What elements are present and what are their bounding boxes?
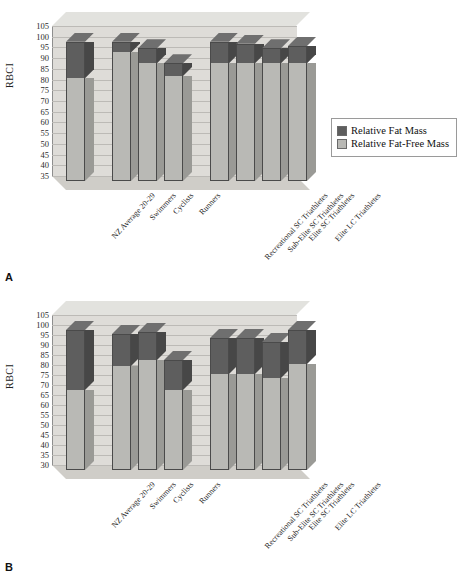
bar-segment-fat[interactable] (66, 330, 85, 390)
y-axis-tick-label: 105 (23, 311, 49, 319)
bar-segment-fat-free[interactable] (164, 76, 183, 181)
y-axis-tick-label: 100 (23, 33, 49, 41)
bar-6[interactable] (236, 44, 255, 181)
bar-segment-fat-side (85, 330, 94, 390)
legend-item-1[interactable]: Relative Fat Mass (337, 125, 449, 137)
bar-segment-fat[interactable] (288, 46, 307, 63)
y-axis-title-a: RBCI (4, 18, 15, 88)
y-axis-tick-label: 35 (23, 451, 49, 459)
bar-segment-fat-free-side (85, 390, 94, 470)
bar-segment-fat-face (138, 332, 157, 360)
bar-segment-fat[interactable] (66, 42, 85, 78)
bar-segment-fat[interactable] (138, 332, 157, 360)
y-axis-tick-label: 40 (23, 161, 49, 169)
bar-segment-fat-free[interactable] (66, 390, 85, 470)
bar-segment-fat-free[interactable] (210, 374, 229, 470)
bar-segment-fat-free[interactable] (262, 378, 281, 470)
bar-3[interactable] (138, 332, 157, 470)
bar-segment-fat-free-face (66, 390, 85, 470)
x-axis-label: Runners (197, 191, 222, 217)
bar-segment-fat-free-side (183, 76, 192, 181)
x-axis-label: Runners (197, 480, 222, 506)
plot-area-b: 1051009590858075706560555045403530NZ Ave… (52, 301, 310, 479)
bar-2[interactable] (112, 334, 131, 470)
y-axis-tick-label: 60 (23, 118, 49, 126)
bar-segment-fat-face (112, 42, 131, 53)
y-axis-tick-label: 50 (23, 421, 49, 429)
panel-letter-b: B (5, 561, 13, 573)
legend-label: Relative Fat Mass (351, 125, 427, 137)
bar-segment-fat[interactable] (236, 44, 255, 63)
bar-segment-fat-free[interactable] (236, 63, 255, 181)
bar-2[interactable] (112, 42, 131, 181)
bar-4[interactable] (164, 360, 183, 470)
bar-8[interactable] (288, 46, 307, 181)
bar-segment-fat-free[interactable] (138, 63, 157, 181)
bar-segment-fat[interactable] (262, 342, 281, 378)
bar-segment-fat[interactable] (112, 334, 131, 366)
bar-segment-fat[interactable] (288, 330, 307, 364)
bar-4[interactable] (164, 63, 183, 181)
y-axis-tick-label: 90 (23, 341, 49, 349)
bar-segment-fat[interactable] (164, 63, 183, 76)
bar-segment-fat[interactable] (112, 42, 131, 53)
bar-segment-fat-free-face (164, 76, 183, 181)
bar-segment-fat[interactable] (164, 360, 183, 390)
y-axis-tick-label: 85 (23, 351, 49, 359)
bar-segment-fat-free-face (288, 63, 307, 181)
bar-segment-fat-free-side (307, 63, 316, 181)
bar-segment-fat-free[interactable] (164, 390, 183, 470)
bar-7[interactable] (262, 48, 281, 181)
bar-segment-fat-free-face (138, 360, 157, 470)
bar-8[interactable] (288, 330, 307, 470)
bar-segment-fat-free[interactable] (288, 63, 307, 181)
y-axis-tick-label: 45 (23, 151, 49, 159)
bar-segment-fat-face (66, 42, 85, 78)
bar-segment-fat-free-face (262, 63, 281, 181)
y-axis-tick-label: 60 (23, 401, 49, 409)
bar-segment-fat-free-face (210, 63, 229, 181)
bar-segment-fat-face (112, 334, 131, 366)
y-axis-tick-label: 55 (23, 411, 49, 419)
bar-segment-fat-face (138, 48, 157, 63)
bar-segment-fat-free[interactable] (112, 52, 131, 181)
y-axis-tick-label: 95 (23, 331, 49, 339)
bar-segment-fat-free-face (66, 78, 85, 181)
bar-segment-fat-face (210, 338, 229, 374)
bar-segment-fat-free[interactable] (210, 63, 229, 181)
bar-segment-fat-face (66, 330, 85, 390)
bar-segment-fat-face (210, 42, 229, 63)
bar-segment-fat-free-face (164, 390, 183, 470)
bar-segment-fat-free-face (112, 52, 131, 181)
bar-3[interactable] (138, 48, 157, 181)
y-axis-tick-label: 80 (23, 361, 49, 369)
y-axis-tick-label: 55 (23, 129, 49, 137)
bar-1[interactable] (66, 330, 85, 470)
bar-segment-fat-free[interactable] (66, 78, 85, 181)
bar-segment-fat-free-face (236, 374, 255, 470)
bar-1[interactable] (66, 42, 85, 181)
bar-segment-fat-free[interactable] (236, 374, 255, 470)
bar-segment-fat[interactable] (210, 42, 229, 63)
y-axis-tick-label: 95 (23, 43, 49, 51)
panel-letter-a: A (5, 271, 13, 283)
bar-segment-fat-free[interactable] (262, 63, 281, 181)
y-axis-tick-label: 90 (23, 54, 49, 62)
bar-segment-fat-side (307, 46, 316, 63)
bar-segment-fat-free[interactable] (138, 360, 157, 470)
bar-segment-fat-free-face (112, 366, 131, 470)
bar-segment-fat[interactable] (138, 48, 157, 63)
bar-segment-fat-free[interactable] (112, 366, 131, 470)
bar-segment-fat[interactable] (210, 338, 229, 374)
bar-segment-fat-free[interactable] (288, 364, 307, 470)
bar-segment-fat[interactable] (262, 48, 281, 63)
bar-6[interactable] (236, 338, 255, 470)
bar-segment-fat[interactable] (236, 338, 255, 374)
legend-item-2[interactable]: Relative Fat-Free Mass (337, 138, 449, 150)
bar-7[interactable] (262, 342, 281, 470)
bar-segment-fat-face (236, 338, 255, 374)
bar-5[interactable] (210, 338, 229, 470)
plot-area-a: 10510095908580757065605550454035NZ Avera… (52, 12, 310, 190)
bar-5[interactable] (210, 42, 229, 181)
bar-segment-fat-face (236, 44, 255, 63)
